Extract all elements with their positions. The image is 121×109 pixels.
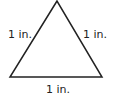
left-side-label: 1 in.: [8, 29, 32, 40]
right-side-label: 1 in.: [83, 29, 107, 40]
base-label: 1 in.: [46, 84, 70, 95]
triangle-diagram: 1 in. 1 in. 1 in.: [0, 0, 121, 109]
